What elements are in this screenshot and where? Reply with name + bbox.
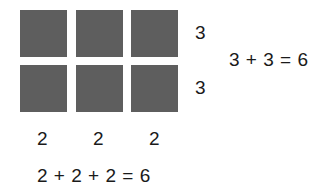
column-label: 2: [149, 129, 160, 148]
column-label: 2: [93, 129, 104, 148]
square: [76, 65, 123, 112]
square: [76, 10, 123, 57]
square: [131, 10, 178, 57]
square: [20, 65, 67, 112]
column-equation: 2 + 2 + 2 = 6: [37, 166, 151, 185]
row-equation: 3 + 3 = 6: [229, 50, 309, 69]
row-label: 3: [195, 23, 206, 42]
square: [20, 10, 67, 57]
column-label: 2: [37, 129, 48, 148]
square: [131, 65, 178, 112]
row-label: 3: [195, 78, 206, 97]
